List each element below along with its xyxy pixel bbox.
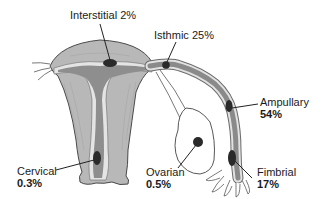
site-name: Ovarian xyxy=(146,166,185,178)
implant-cervical xyxy=(93,151,101,165)
site-name: Cervical xyxy=(17,165,57,177)
site-percent: 0.3% xyxy=(17,177,57,189)
implant-fimbrial xyxy=(228,150,236,166)
site-percent: 2% xyxy=(120,9,136,21)
label-fimbrial: Fimbrial 17% xyxy=(257,166,296,190)
implant-ampullary xyxy=(226,100,233,112)
label-interstitial: Interstitial 2% xyxy=(70,9,136,21)
label-cervical: Cervical 0.3% xyxy=(17,165,57,189)
ovarian-ligament xyxy=(156,70,186,118)
site-name: Fimbrial xyxy=(257,166,296,178)
ectopic-pregnancy-diagram: Interstitial 2% Isthmic 25% Ampullary 54… xyxy=(0,0,322,199)
site-percent: 0.5% xyxy=(146,178,185,190)
fimbriae xyxy=(206,170,250,197)
site-percent: 54% xyxy=(260,108,309,120)
label-ampullary: Ampullary 54% xyxy=(260,96,309,120)
label-isthmic: Isthmic 25% xyxy=(154,29,214,41)
left-ligament-strands xyxy=(32,63,52,80)
site-name: Interstitial xyxy=(70,9,117,21)
implant-isthmic xyxy=(162,61,170,69)
implant-interstitial xyxy=(103,59,117,67)
site-name: Ampullary xyxy=(260,96,309,108)
implant-ovarian xyxy=(193,137,203,147)
site-name: Isthmic xyxy=(154,29,189,41)
site-percent: 17% xyxy=(257,178,296,190)
label-ovarian: Ovarian 0.5% xyxy=(146,166,185,190)
site-percent: 25% xyxy=(192,29,214,41)
